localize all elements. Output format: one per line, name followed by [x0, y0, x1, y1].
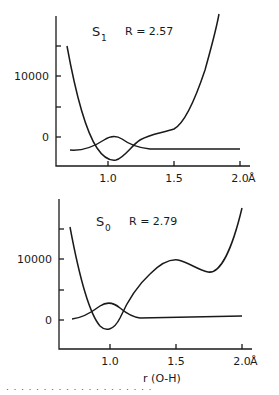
x-tick-label: 1.0 — [99, 172, 117, 185]
x-ticks — [108, 161, 240, 166]
panel-title: S — [92, 24, 100, 39]
figure: 10000 0 1.0 1.5 2.0 Å S 1 R = 2.57 10000… — [0, 0, 279, 395]
x-tick-label: 2.0 — [233, 355, 251, 368]
y-tick-label: 0 — [45, 314, 52, 327]
x-tick-label: 2.0 — [231, 172, 249, 185]
panel-title: S — [96, 214, 104, 229]
y-tick-label: 0 — [42, 131, 49, 144]
y-ticks — [56, 46, 61, 137]
y-tick-label: 10000 — [14, 70, 49, 83]
x-ticks — [110, 344, 242, 349]
caption-fragment: · · · · · · · · · · · · · · · · · · · · — [6, 384, 276, 394]
x-tick-label: 1.0 — [101, 355, 119, 368]
panel-title-sub: 0 — [105, 223, 111, 233]
panel-annotation: R = 2.57 — [125, 25, 173, 38]
panel-annotation: R = 2.79 — [129, 215, 177, 228]
y-ticks — [59, 229, 64, 320]
y-tick-label: 10000 — [17, 253, 52, 266]
chart-s1: 10000 0 1.0 1.5 2.0 Å S 1 R = 2.57 — [14, 14, 256, 185]
wavefunction-curve — [70, 136, 240, 150]
chart-s0: 10000 0 1.0 1.5 2.0 Å r (O-H) S 0 R = 2.… — [17, 199, 258, 385]
wavefunction-curve — [72, 303, 242, 319]
x-unit: Å — [250, 355, 258, 368]
y-axis — [56, 16, 250, 166]
x-tick-label: 1.5 — [165, 172, 183, 185]
x-unit: Å — [248, 172, 256, 185]
panel-title-sub: 1 — [101, 33, 107, 43]
x-tick-label: 1.5 — [167, 355, 185, 368]
